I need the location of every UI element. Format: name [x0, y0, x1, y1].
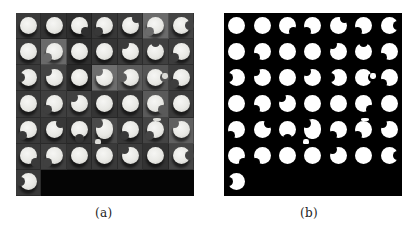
fragment-chip	[370, 73, 376, 79]
grid-cell	[169, 65, 194, 91]
blob-notch	[264, 119, 273, 128]
grid-cell	[300, 13, 325, 39]
grid-cell	[249, 91, 274, 117]
blob-notch	[185, 21, 194, 30]
grid-cell	[169, 13, 194, 39]
grid-cell	[275, 39, 300, 65]
grid-cell	[326, 39, 351, 65]
grid-cell	[41, 39, 66, 65]
grid-cell	[169, 39, 194, 65]
grid-cell	[67, 118, 92, 144]
subcaption-b: (b)	[300, 206, 318, 220]
blob-notch	[353, 131, 362, 140]
grid-cell	[92, 13, 117, 39]
blob-notch	[43, 158, 52, 167]
grid-cell	[118, 39, 143, 65]
grid-cell	[143, 144, 168, 170]
grid-cell	[92, 144, 117, 170]
mask-blob	[228, 17, 245, 34]
grid-cell	[249, 144, 274, 170]
grid-cell	[118, 144, 143, 170]
grid-cell	[351, 118, 376, 144]
grid-cell	[326, 65, 351, 91]
grid-cell	[16, 65, 41, 91]
grid-cell	[16, 91, 41, 117]
grid-cell	[275, 118, 300, 144]
blob-notch	[302, 119, 311, 128]
blob-notch	[353, 27, 362, 36]
mask-blob	[228, 43, 245, 60]
blob-notch	[185, 151, 194, 160]
grid-cell	[224, 170, 249, 196]
grid-cell	[118, 65, 143, 91]
blob-notch	[328, 131, 337, 140]
grid-cell	[351, 65, 376, 91]
blob-notch	[326, 73, 335, 82]
grid-cell	[92, 65, 117, 91]
blob-notch	[239, 158, 248, 167]
grid-cell	[300, 118, 325, 144]
grid-cell	[92, 91, 117, 117]
mask-blob	[304, 43, 321, 60]
grid-cell	[169, 91, 194, 117]
blob-notch	[132, 14, 141, 23]
grid-cell	[377, 118, 402, 144]
grid-cell	[118, 91, 143, 117]
specimen-blob	[20, 17, 37, 34]
subcaption-a: (a)	[95, 206, 112, 220]
blob-notch	[283, 134, 292, 143]
blob-notch	[277, 93, 286, 102]
mask-blob	[254, 17, 271, 34]
grid-cell	[249, 118, 274, 144]
grid-cell	[67, 39, 92, 65]
specimen-blob	[20, 43, 37, 60]
grid-cell	[377, 13, 402, 39]
grid-cell	[300, 65, 325, 91]
blob-notch	[145, 27, 154, 36]
grid-cell	[224, 91, 249, 117]
blob-notch	[158, 105, 167, 114]
grid-cell	[143, 91, 168, 117]
grid-cell	[92, 39, 117, 65]
panel-b-binary-mask-grid	[224, 13, 402, 196]
grid-cell	[224, 65, 249, 91]
specimen-blob	[173, 95, 190, 112]
panel-a-grayscale-grid	[16, 13, 194, 196]
grid-cell	[351, 13, 376, 39]
grid-cell	[67, 144, 92, 170]
grid-cell	[143, 118, 168, 144]
grid-cell	[224, 144, 249, 170]
mask-blob	[381, 95, 398, 112]
specimen-blob	[122, 95, 139, 112]
grid-cell	[16, 144, 41, 170]
blob-notch	[378, 53, 387, 62]
blob-notch	[81, 27, 90, 36]
specimen-blob	[71, 43, 88, 60]
grid-cell	[41, 91, 66, 117]
grid-cell	[143, 13, 168, 39]
grid-cell	[351, 144, 376, 170]
grid-cell	[326, 144, 351, 170]
blob-notch	[328, 40, 337, 49]
mask-blob	[304, 95, 321, 112]
grid-cell	[118, 13, 143, 39]
blob-notch	[302, 67, 311, 76]
blob-notch	[31, 158, 40, 167]
grid-cell	[326, 118, 351, 144]
blob-notch	[289, 27, 298, 36]
grid-cell	[16, 39, 41, 65]
blob-notch	[16, 73, 25, 82]
grid-cell	[16, 118, 41, 144]
grid-cell	[169, 118, 194, 144]
blob-notch	[302, 27, 311, 36]
blob-notch	[75, 134, 84, 143]
blob-notch	[251, 53, 260, 62]
grid-cell	[16, 13, 41, 39]
blob-notch	[94, 67, 103, 76]
fragment-chip	[153, 118, 161, 121]
grid-cell	[16, 170, 41, 196]
mask-blob	[228, 95, 245, 112]
grid-cell	[118, 118, 143, 144]
mask-blob	[279, 43, 296, 60]
grid-cell	[169, 144, 194, 170]
